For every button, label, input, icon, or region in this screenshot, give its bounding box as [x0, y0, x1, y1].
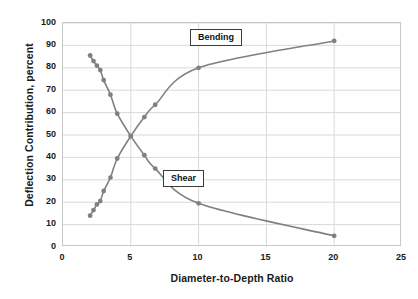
- x-tick-label: 15: [250, 253, 280, 262]
- deflection-contribution-chart: Deflection Contribution, percent Diamete…: [0, 0, 418, 299]
- x-tick-label: 25: [386, 253, 416, 262]
- x-tick-label: 5: [115, 253, 145, 262]
- x-tick-label: 0: [47, 253, 77, 262]
- x-tick-label: 10: [183, 253, 213, 262]
- x-tick-label: 20: [318, 253, 348, 262]
- series-callout-shear: Shear: [163, 170, 204, 187]
- series-callout-bending: Bending: [190, 29, 242, 46]
